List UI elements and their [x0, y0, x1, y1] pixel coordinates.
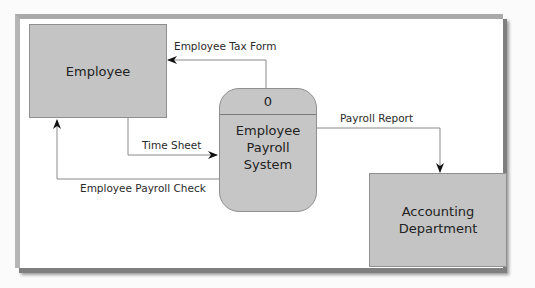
process-name: Employee Payroll System: [220, 122, 316, 173]
entity-accounting-label-1: Accounting: [402, 203, 475, 220]
process-id: 0: [220, 89, 316, 115]
flow-tax-form-label: Employee Tax Form: [174, 40, 276, 52]
flow-tax-form-line: [168, 60, 266, 88]
entity-employee: Employee: [29, 24, 167, 118]
entity-accounting-label-2: Department: [399, 220, 478, 237]
process-name-line-3: System: [220, 156, 316, 173]
process-employee-payroll-system: 0 Employee Payroll System: [219, 88, 317, 212]
flow-time-sheet-label: Time Sheet: [142, 139, 201, 151]
process-name-line-2: Payroll: [220, 139, 316, 156]
entity-employee-label: Employee: [66, 63, 130, 80]
flow-payroll-report-line: [315, 128, 440, 172]
process-name-line-1: Employee: [220, 122, 316, 139]
flow-payroll-check-label: Employee Payroll Check: [80, 182, 206, 194]
flow-payroll-report-label: Payroll Report: [340, 112, 413, 124]
entity-accounting-department: Accounting Department: [369, 173, 507, 267]
